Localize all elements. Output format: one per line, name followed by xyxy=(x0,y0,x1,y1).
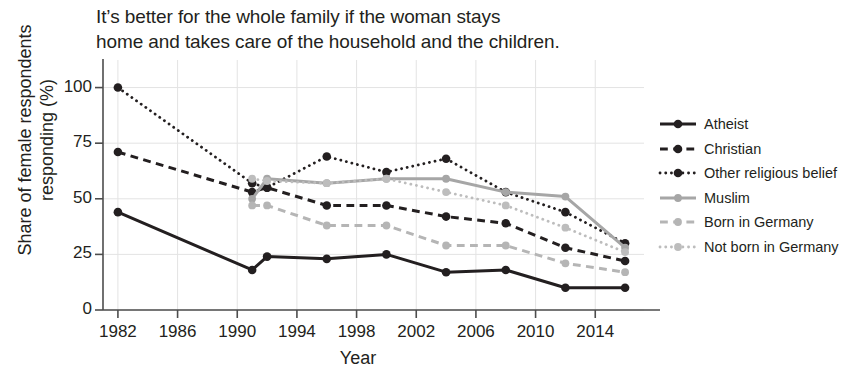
data-point xyxy=(114,83,123,92)
legend-label: Born in Germany xyxy=(698,214,814,230)
legend-item-atheist[interactable]: Atheist xyxy=(658,112,839,137)
legend-label: Atheist xyxy=(698,116,748,132)
legend-marker-dot xyxy=(674,243,682,251)
series-line xyxy=(252,179,625,252)
data-point xyxy=(562,224,570,232)
series-line xyxy=(118,88,625,244)
legend-item-muslim[interactable]: Muslim xyxy=(658,186,839,211)
data-point xyxy=(561,243,570,252)
legend-item-other-religious-belief[interactable]: Other religious belief xyxy=(658,161,839,186)
data-point xyxy=(501,266,510,275)
data-point xyxy=(442,175,450,183)
y-axis-tick-label: 25 xyxy=(50,243,92,263)
chart-title-line-2: home and takes care of the household and… xyxy=(96,29,656,54)
data-point xyxy=(562,193,570,201)
data-point xyxy=(248,202,256,210)
data-point xyxy=(383,175,391,183)
data-point xyxy=(263,202,271,210)
series-christian xyxy=(114,148,630,266)
data-point xyxy=(114,148,123,157)
data-point xyxy=(322,152,331,161)
legend-label: Not born in Germany xyxy=(698,239,839,255)
gridlines xyxy=(103,60,644,310)
data-point xyxy=(442,268,451,277)
series-line xyxy=(118,212,625,288)
data-point xyxy=(621,248,629,256)
data-point xyxy=(442,242,450,250)
series-line xyxy=(118,152,625,261)
legend-marker-icon xyxy=(658,116,698,132)
x-axis-tick-label: 2010 xyxy=(506,322,566,342)
data-point xyxy=(442,212,451,221)
legend-label: Christian xyxy=(698,141,761,157)
x-axis-tick-label: 2006 xyxy=(446,322,506,342)
data-point xyxy=(263,252,272,261)
data-point xyxy=(621,268,629,276)
data-point xyxy=(502,188,510,196)
data-point xyxy=(248,266,257,275)
x-axis-tick-label: 1998 xyxy=(327,322,387,342)
data-point xyxy=(442,188,450,196)
chart-title-line-1: It’s better for the whole family if the … xyxy=(96,4,656,29)
data-point xyxy=(263,183,272,192)
axis-lines xyxy=(95,59,660,318)
chart-figure: It’s better for the whole family if the … xyxy=(0,0,846,374)
legend-marker-icon xyxy=(658,141,698,157)
series-not-born-in-germany xyxy=(248,175,629,256)
legend-item-born-in-germany[interactable]: Born in Germany xyxy=(658,210,839,235)
legend-marker-dot xyxy=(674,144,683,153)
x-axis-tick-label: 2014 xyxy=(565,322,625,342)
data-point xyxy=(263,177,271,185)
y-axis-title-line-1: Share of female respondents xyxy=(14,0,36,280)
data-point xyxy=(263,175,271,183)
x-axis-tick-label: 1990 xyxy=(207,322,267,342)
data-point xyxy=(248,195,256,203)
x-axis-tick-label: 1982 xyxy=(88,322,148,342)
data-point xyxy=(501,219,510,228)
series-atheist xyxy=(114,208,630,292)
x-axis-tick-label: 2002 xyxy=(386,322,446,342)
data-point xyxy=(502,202,510,210)
legend-marker-dot xyxy=(674,218,682,226)
data-point xyxy=(382,201,391,210)
data-point xyxy=(322,201,331,210)
data-point xyxy=(323,179,331,187)
legend-marker-icon xyxy=(658,190,698,206)
series-line xyxy=(252,205,625,272)
y-axis-tick-label: 75 xyxy=(50,132,92,152)
chart-title: It’s better for the whole family if the … xyxy=(96,4,656,54)
data-point xyxy=(382,168,391,177)
y-axis-tick-label: 100 xyxy=(50,77,92,97)
legend-marker-dot xyxy=(674,169,683,178)
y-axis-tick-label: 0 xyxy=(50,299,92,319)
data-point xyxy=(561,208,570,217)
y-axis-tick-label: 50 xyxy=(50,188,92,208)
data-point xyxy=(322,255,331,264)
series-muslim xyxy=(248,175,629,252)
data-point xyxy=(114,208,123,217)
data-point xyxy=(382,250,391,259)
data-point xyxy=(248,179,257,188)
legend-marker-icon xyxy=(658,239,698,255)
data-point xyxy=(383,222,391,230)
x-axis-title: Year xyxy=(103,348,613,369)
legend-item-christian[interactable]: Christian xyxy=(658,137,839,162)
x-axis-tick-label: 1986 xyxy=(148,322,208,342)
chart-legend: AtheistChristianOther religious beliefMu… xyxy=(658,112,839,259)
legend-marker-dot xyxy=(674,194,682,202)
series-born-in-germany xyxy=(248,202,629,277)
data-point xyxy=(383,175,391,183)
legend-item-not-born-in-germany[interactable]: Not born in Germany xyxy=(658,235,839,260)
data-point xyxy=(248,175,256,183)
data-point xyxy=(442,154,451,163)
series-line xyxy=(252,179,625,248)
legend-marker-icon xyxy=(658,214,698,230)
x-axis-tick-label: 1994 xyxy=(267,322,327,342)
data-point xyxy=(621,244,629,252)
legend-label: Muslim xyxy=(698,190,750,206)
data-point xyxy=(562,259,570,267)
data-point xyxy=(621,239,630,248)
data-point xyxy=(621,257,630,266)
data-point xyxy=(323,179,331,187)
legend-label: Other religious belief xyxy=(698,165,837,181)
